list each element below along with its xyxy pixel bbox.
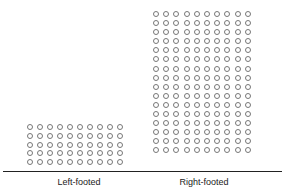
circle-icon — [235, 102, 241, 108]
circle-icon — [235, 93, 241, 99]
circle-icon — [184, 147, 190, 153]
circle-icon — [173, 93, 179, 99]
circle-icon — [204, 38, 210, 44]
circle-icon — [194, 102, 200, 108]
circle-icon — [67, 159, 73, 165]
circle-icon — [47, 159, 53, 165]
circle-icon — [163, 38, 169, 44]
circle-icon — [214, 120, 220, 126]
circle-icon — [224, 66, 230, 72]
circle-icon — [77, 124, 83, 130]
circle-icon — [245, 38, 251, 44]
circle-icon — [214, 47, 220, 53]
circle-icon — [163, 47, 169, 53]
circle-icon — [204, 84, 210, 90]
circle-icon — [153, 47, 159, 53]
circle-icon — [245, 111, 251, 117]
circle-icon — [117, 142, 123, 148]
circle-icon — [214, 56, 220, 62]
circle-icon — [173, 129, 179, 135]
circle-icon — [153, 102, 159, 108]
circle-icon — [214, 84, 220, 90]
circle-icon — [153, 56, 159, 62]
circle-icon — [204, 120, 210, 126]
circle-icon — [184, 120, 190, 126]
circle-icon — [204, 20, 210, 26]
category-label-right: Right-footed — [154, 177, 254, 187]
circle-icon — [37, 142, 43, 148]
circle-icon — [235, 66, 241, 72]
circle-icon — [204, 147, 210, 153]
circle-icon — [235, 38, 241, 44]
circle-icon — [204, 102, 210, 108]
circle-icon — [173, 120, 179, 126]
circle-icon — [47, 142, 53, 148]
circle-icon — [184, 102, 190, 108]
circle-icon — [214, 147, 220, 153]
circle-icon — [87, 159, 93, 165]
circle-icon — [245, 120, 251, 126]
circle-icon — [107, 142, 113, 148]
circle-icon — [173, 75, 179, 81]
circle-icon — [77, 150, 83, 156]
circle-icon — [153, 75, 159, 81]
circle-icon — [194, 129, 200, 135]
circle-icon — [117, 124, 123, 130]
circle-icon — [224, 29, 230, 35]
circle-icon — [224, 138, 230, 144]
circle-icon — [97, 150, 103, 156]
circle-icon — [204, 11, 210, 17]
circle-icon — [184, 66, 190, 72]
circle-icon — [245, 129, 251, 135]
circle-icon — [173, 66, 179, 72]
circle-icon — [235, 84, 241, 90]
circle-icon — [37, 159, 43, 165]
circle-icon — [204, 56, 210, 62]
right-footed-pictogram — [153, 11, 255, 157]
circle-icon — [204, 111, 210, 117]
circle-icon — [153, 66, 159, 72]
circle-icon — [163, 138, 169, 144]
circle-icon — [184, 20, 190, 26]
circle-icon — [184, 129, 190, 135]
circle-icon — [245, 47, 251, 53]
circle-icon — [245, 147, 251, 153]
circle-icon — [87, 142, 93, 148]
circle-icon — [204, 29, 210, 35]
circle-icon — [27, 159, 33, 165]
circle-icon — [194, 147, 200, 153]
circle-icon — [214, 129, 220, 135]
circle-icon — [204, 75, 210, 81]
circle-icon — [224, 75, 230, 81]
circle-icon — [245, 84, 251, 90]
circle-icon — [57, 159, 63, 165]
circle-icon — [214, 38, 220, 44]
circle-icon — [245, 138, 251, 144]
circle-icon — [153, 29, 159, 35]
circle-icon — [153, 84, 159, 90]
circle-icon — [245, 20, 251, 26]
circle-icon — [57, 133, 63, 139]
circle-icon — [163, 20, 169, 26]
circle-icon — [173, 147, 179, 153]
circle-icon — [163, 84, 169, 90]
circle-icon — [163, 66, 169, 72]
circle-icon — [173, 138, 179, 144]
circle-icon — [117, 159, 123, 165]
circle-icon — [214, 20, 220, 26]
circle-icon — [37, 124, 43, 130]
circle-icon — [163, 56, 169, 62]
circle-icon — [224, 120, 230, 126]
circle-icon — [184, 29, 190, 35]
circle-icon — [37, 133, 43, 139]
circle-icon — [184, 138, 190, 144]
circle-icon — [204, 47, 210, 53]
circle-icon — [235, 20, 241, 26]
circle-icon — [224, 84, 230, 90]
circle-icon — [245, 11, 251, 17]
circle-icon — [194, 138, 200, 144]
circle-icon — [245, 66, 251, 72]
circle-icon — [97, 124, 103, 130]
circle-icon — [194, 120, 200, 126]
circle-icon — [173, 84, 179, 90]
